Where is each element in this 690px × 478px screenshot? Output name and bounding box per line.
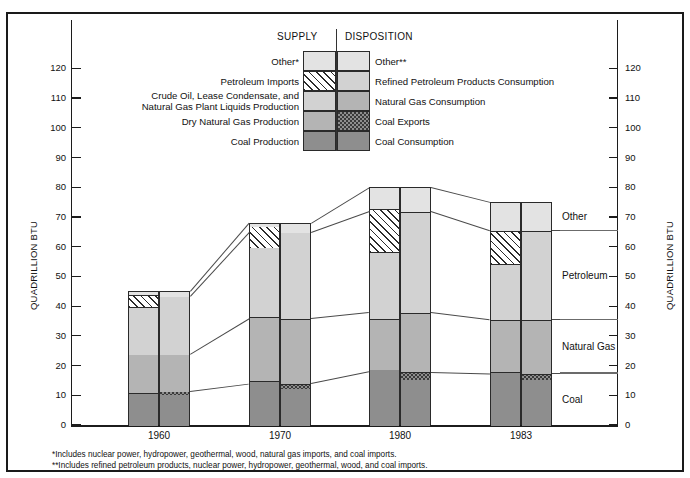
bar-segment-coal-exports [522, 374, 551, 380]
legend-label-refined-petroleum: Refined Petroleum Products Consumption [375, 76, 554, 87]
bar-segment-refined-petroleum [522, 231, 551, 320]
leader-line-natural-gas-boundary-tail [552, 319, 560, 320]
bar-segment-natural-gas-consumption [281, 319, 310, 384]
y-tick-label-right: 120 [625, 63, 661, 73]
y-tick-right [609, 424, 618, 425]
y-tick-label-right: 60 [625, 242, 661, 252]
legend-swatch-coal-exports [337, 111, 370, 131]
bar-segment-crude [129, 307, 158, 355]
y-tick-label-left: 100 [30, 123, 66, 133]
legend-swatch-other [303, 51, 336, 71]
bar-supply-1980 [369, 187, 400, 425]
x-axis-label-1980: 1980 [349, 430, 451, 441]
y-tick-label-left: 120 [30, 63, 66, 73]
y-tick-left [72, 216, 81, 217]
legend-label-natural-gas-consumption: Natural Gas Consumption [375, 96, 485, 107]
leader-line-petroleum-boundary-tail [552, 230, 560, 231]
leader-line-petroleum-boundary-2 [431, 211, 490, 231]
y-tick-right [609, 127, 618, 128]
bar-segment-other2 [281, 224, 310, 233]
leader-line-coal-boundary-0 [190, 383, 249, 391]
y-tick-label-left: 80 [30, 182, 66, 192]
category-rule-natural-gas [560, 372, 618, 373]
y-tick-label-right: 40 [625, 301, 661, 311]
y-tick-left [72, 424, 81, 425]
y-tick-right [609, 216, 618, 217]
frame-left-border [6, 12, 8, 472]
y-axis-title-left: QUADRILLION BTU [28, 221, 39, 310]
footnote-1: *Includes nuclear power, hydropower, geo… [52, 450, 397, 461]
bar-segment-other2 [522, 203, 551, 231]
legend-label-dry-natural-gas: Dry Natural Gas Production [60, 116, 299, 127]
bar-segment-coal-consumption [401, 380, 430, 426]
bar-segment-other [129, 292, 158, 295]
bar-segment-coal-consumption [522, 380, 551, 426]
legend-label-line-2: Natural Gas Plant Liquids Production [60, 101, 299, 112]
bar-segment-crude [370, 252, 399, 319]
y-tick-label-right: 70 [625, 212, 661, 222]
y-tick-label-left: 20 [30, 361, 66, 371]
bar-supply-1970 [249, 223, 280, 425]
legend-swatch-crude [303, 91, 336, 111]
bar-segment-refined-petroleum [281, 233, 310, 319]
bar-segment-dry-natural-gas [250, 318, 279, 382]
leader-line-total-2 [431, 187, 490, 203]
bar-disposition-1970 [280, 223, 311, 425]
y-tick-label-right: 100 [625, 123, 661, 133]
bar-segment-dry-natural-gas [129, 355, 158, 394]
x-axis-label-1983: 1983 [470, 430, 572, 441]
y-tick-label-right: 90 [625, 153, 661, 163]
y-tick-right [609, 395, 618, 396]
legend-label-crude: Crude Oil, Lease Condensate, andNatural … [60, 90, 299, 112]
bar-segment-natural-gas-consumption [160, 355, 189, 392]
legend-swatch-coal-consumption [337, 131, 370, 151]
legend-swatch-petroleum-imports [303, 71, 336, 91]
category-rule-petroleum [560, 319, 618, 320]
footnote-2: **Includes refined petroleum products, n… [52, 461, 427, 472]
leader-line-coal-boundary-tail [552, 373, 560, 374]
bar-disposition-1960 [159, 291, 190, 425]
y-tick-right [609, 97, 618, 98]
y-tick-label-left: 30 [30, 331, 66, 341]
leader-line-coal-boundary-1 [311, 372, 369, 385]
y-tick-right [609, 187, 618, 188]
y-tick-left [72, 157, 81, 158]
legend-swatch-natural-gas-consumption [337, 91, 370, 111]
x-axis-label-1960: 1960 [108, 430, 210, 441]
bar-segment-refined-petroleum [401, 212, 430, 313]
legend-label-coal-exports: Coal Exports [375, 116, 430, 127]
y-tick-label-left: 0 [30, 420, 66, 430]
legend-swatch-other2 [337, 51, 370, 71]
chart-canvas: SUPPLY DISPOSITION Other*Petroleum Impor… [0, 0, 690, 478]
category-label-petroleum: Petroleum [562, 270, 608, 281]
bar-segment-coal-exports [401, 372, 430, 379]
leader-line-coal-boundary-2 [431, 372, 490, 374]
bar-segment-coal-production [491, 372, 520, 425]
category-label-other: Other [562, 211, 587, 222]
bar-segment-natural-gas-consumption [522, 320, 551, 373]
bar-segment-coal-exports [281, 384, 310, 388]
legend-swatch-dry-natural-gas [303, 111, 336, 131]
y-axis-title-right: QUADRILLION BTU [664, 221, 675, 310]
leader-line-petroleum-boundary-0 [190, 232, 250, 297]
leader-line-total-0 [190, 223, 250, 292]
leader-line-natural-gas-boundary-1 [311, 312, 369, 319]
bar-supply-1960 [128, 291, 159, 425]
y-tick-right [609, 246, 618, 247]
y-tick-label-right: 20 [625, 361, 661, 371]
y-tick-right [609, 276, 618, 277]
category-label-natural-gas: Natural Gas [562, 341, 615, 352]
frame-top-border [6, 12, 684, 14]
y-tick-label-left: 110 [30, 93, 66, 103]
y-tick-label-right: 50 [625, 271, 661, 281]
legend-header-supply: SUPPLY [277, 31, 318, 42]
y-tick-left [72, 306, 81, 307]
bar-segment-crude [491, 264, 520, 320]
y-tick-left [72, 97, 81, 98]
y-tick-label-left: 90 [30, 153, 66, 163]
y-tick-label-right: 10 [625, 390, 661, 400]
legend-label-petroleum-imports: Petroleum Imports [60, 76, 299, 87]
bar-segment-other2 [401, 188, 430, 212]
leader-line-petroleum-boundary-1 [311, 211, 369, 233]
legend-label-line-1: Crude Oil, Lease Condensate, and [60, 90, 299, 101]
